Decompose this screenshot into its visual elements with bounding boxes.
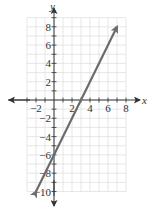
y-tick-label: 6 (46, 39, 52, 51)
x-tick-label: 6 (105, 102, 111, 114)
x-tick-label: 8 (123, 102, 129, 114)
x-tick-label: 4 (87, 102, 93, 114)
x-axis-label: x (141, 94, 147, 106)
y-tick-label: 2 (46, 76, 52, 88)
y-axis-label: y (49, 0, 55, 12)
coordinate-plane: −224688642−2−4−6−8−10 x y (0, 0, 152, 217)
y-tick-label: −6 (39, 149, 51, 161)
y-tick-label: −4 (39, 131, 51, 143)
y-tick-label: −2 (39, 112, 51, 124)
y-tick-label: 4 (46, 57, 52, 69)
y-tick-label: 8 (46, 21, 52, 33)
